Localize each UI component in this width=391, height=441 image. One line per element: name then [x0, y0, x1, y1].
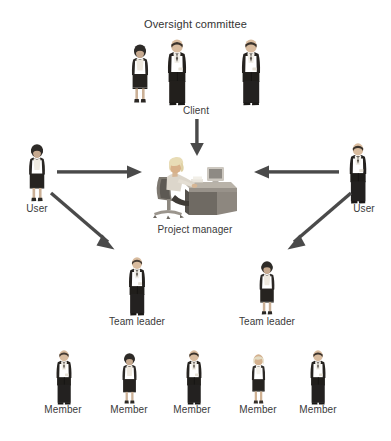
oversight-committee-title: Oversight committee: [0, 18, 391, 30]
figure-oversight-member-1: [127, 44, 153, 106]
figure-member-5: [306, 350, 330, 406]
member-3-label: Member: [162, 404, 222, 415]
client-label: Client: [156, 105, 236, 116]
arrow-user-right-to-project-manager: [253, 164, 339, 180]
arrow-user-right-to-team-leader-right: [280, 190, 354, 256]
figure-team-leader-right: [255, 261, 279, 317]
arrow-client-to-project-manager: [189, 119, 205, 157]
member-2-label: Member: [99, 404, 159, 415]
team-leader-left-label: Team leader: [97, 316, 177, 327]
figure-oversight-member-2: [163, 39, 191, 107]
project-manager-label: Project manager: [145, 224, 245, 235]
figure-member-2: [118, 353, 141, 406]
member-4-label: Member: [228, 404, 288, 415]
figure-member-1: [52, 350, 76, 406]
figure-member-4: [247, 353, 270, 406]
arrow-user-left-to-team-leader-left: [48, 190, 122, 256]
figure-oversight-member-4: [237, 39, 265, 107]
org-diagram-canvas: Oversight committee: [0, 0, 391, 441]
member-1-label: Member: [33, 404, 93, 415]
figure-member-3: [182, 350, 206, 406]
member-5-label: Member: [288, 404, 348, 415]
figure-project-manager: [145, 155, 240, 229]
figure-team-leader-left: [124, 257, 150, 317]
team-leader-right-label: Team leader: [227, 316, 307, 327]
arrow-user-left-to-project-manager: [57, 164, 143, 180]
figure-user-left: [23, 144, 51, 204]
